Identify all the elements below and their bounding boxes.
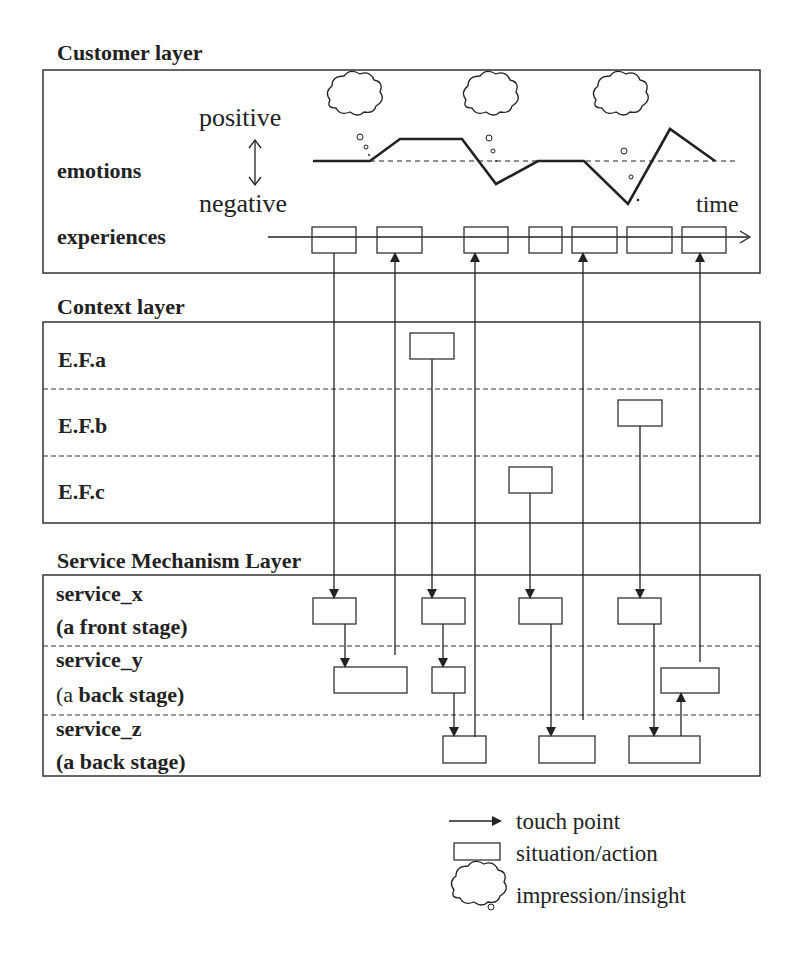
- emotion-curve: [313, 129, 715, 204]
- service-y-stage: (a back stage): [56, 682, 184, 707]
- context-box-efb: [618, 400, 662, 426]
- service-x-stage: (a front stage): [56, 614, 188, 639]
- service-x-box: [618, 598, 661, 624]
- service-x-name: service_x: [56, 581, 143, 606]
- context-layer-title: Context layer: [57, 294, 185, 319]
- impression-cloud-icon: [327, 71, 382, 156]
- legend-impression: impression/insight: [516, 883, 687, 908]
- service-y-name: service_y: [56, 647, 143, 672]
- service-z-box: [629, 736, 700, 763]
- experiences-label: experiences: [57, 224, 166, 249]
- service-x-box: [519, 598, 562, 624]
- service-z-box: [443, 736, 486, 763]
- touch-point-arrows: [334, 253, 700, 737]
- service-x-box: [422, 598, 465, 624]
- legend: touch point situation/action impression/…: [449, 809, 687, 910]
- experience-box: [682, 227, 726, 253]
- service-x-box: [313, 598, 356, 624]
- context-box-efa: [410, 333, 454, 359]
- customer-layer-title: Customer layer: [57, 40, 203, 65]
- experience-box: [529, 227, 562, 253]
- service-z-name: service_z: [56, 716, 142, 741]
- legend-situation: situation/action: [516, 841, 658, 866]
- positive-label: positive: [199, 103, 281, 132]
- service-layer-box: [43, 575, 760, 776]
- experience-box: [377, 227, 422, 253]
- service-y-box: [661, 668, 719, 693]
- experience-box: [572, 227, 617, 253]
- experience-box: [627, 227, 672, 253]
- negative-label: negative: [199, 189, 287, 218]
- context-layer-box: [43, 322, 760, 523]
- situation-box-icon: [454, 843, 500, 860]
- impression-cloud-icon: [463, 71, 518, 162]
- service-blueprint-diagram: Customer layer emotions experiences posi…: [0, 0, 795, 955]
- context-row-efb: E.F.b: [58, 413, 107, 438]
- context-box-efc: [509, 467, 552, 493]
- service-layer-title: Service Mechanism Layer: [57, 548, 302, 573]
- service-z-box: [539, 736, 595, 763]
- service-y-box: [334, 667, 407, 693]
- up-down-arrow-icon: [249, 140, 261, 185]
- context-row-efa: E.F.a: [58, 347, 106, 372]
- legend-touch-point: touch point: [516, 809, 621, 834]
- impression-cloud-icon: [451, 861, 506, 905]
- emotions-label: emotions: [57, 158, 142, 183]
- context-row-efc: E.F.c: [58, 479, 105, 504]
- experience-box: [464, 227, 508, 253]
- time-label: time: [696, 191, 739, 217]
- service-z-stage: (a back stage): [56, 749, 186, 774]
- service-y-box: [432, 667, 465, 693]
- experience-box: [312, 227, 356, 253]
